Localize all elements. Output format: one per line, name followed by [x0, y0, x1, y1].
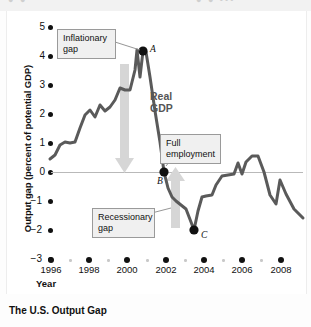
point-b-label: B — [157, 176, 163, 186]
figure-root: ● ● ● ● ••• Output gap (percent of poten… — [0, 0, 311, 327]
series-label-real-gdp: Real GDP — [150, 90, 188, 114]
point-a-label: A — [150, 44, 156, 54]
page-top-strip: ● ● ● ● ••• — [0, 0, 311, 11]
figure-caption: The U.S. Output Gap — [9, 305, 107, 316]
inflationary-gap-callout[interactable]: Inflationary gap — [57, 29, 116, 59]
point-c-label: C — [201, 230, 207, 240]
plot-svg — [7, 11, 306, 294]
point-c-marker — [189, 225, 198, 234]
top-strip-ghost-left: ● ● — [8, 0, 27, 5]
full-employment-callout[interactable]: Full employment — [160, 134, 221, 164]
chart-card: Output gap (percent of potential GDP) 5 … — [6, 11, 307, 294]
recessionary-gap-arrow — [166, 167, 185, 228]
top-strip-ghost-right: ● ● ••• — [196, 0, 235, 5]
point-a-marker — [138, 46, 147, 55]
inflationary-gap-leader-line — [115, 42, 140, 50]
recessionary-gap-callout[interactable]: Recessionary gap — [92, 208, 155, 238]
